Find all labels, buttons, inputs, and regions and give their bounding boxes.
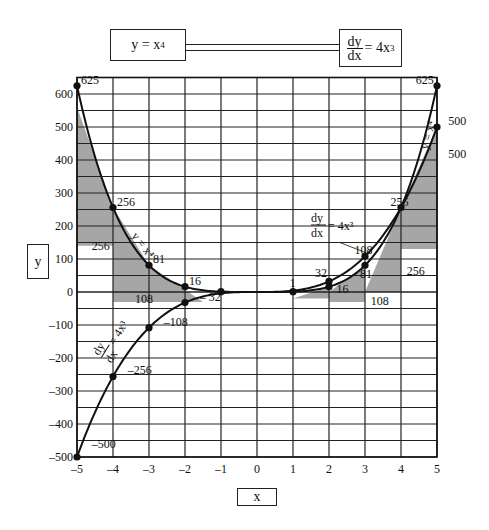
value-annotation: 108 (135, 292, 153, 306)
svg-text:5: 5 (434, 462, 440, 476)
svg-text:–500: –500 (48, 450, 73, 464)
value-annotation: 500 (448, 114, 466, 128)
svg-text:–200: –200 (48, 351, 73, 365)
chart-plot: –5–4–3–2–1012345–500–400–300–200–1000100… (0, 0, 489, 530)
data-point (181, 283, 188, 290)
value-annotation: 1 (290, 276, 296, 290)
svg-text:3: 3 (362, 462, 368, 476)
svg-text:500: 500 (55, 120, 73, 134)
svg-text:–2: –2 (178, 462, 191, 476)
svg-text:–3: –3 (142, 462, 155, 476)
data-point (433, 82, 440, 89)
svg-text:0: 0 (67, 285, 73, 299)
svg-text:1: 1 (290, 462, 296, 476)
value-annotation: 108 (355, 243, 373, 257)
data-point (73, 453, 80, 460)
svg-text:–5: –5 (70, 462, 83, 476)
value-annotation: 625 (416, 73, 434, 87)
value-annotation: 108 (371, 294, 389, 308)
value-annotation: 16 (337, 282, 349, 296)
value-annotation: 32 (315, 266, 327, 280)
curve-label: dydx= 4x³ (311, 211, 354, 240)
data-point (109, 204, 116, 211)
svg-text:100: 100 (55, 252, 73, 266)
data-point (109, 373, 116, 380)
value-annotation: 81 (360, 267, 372, 281)
value-annotation: 500 (448, 147, 466, 161)
data-point (145, 262, 152, 269)
value-annotation: –108 (163, 315, 188, 329)
svg-text:–1: –1 (214, 462, 227, 476)
svg-text:–400: –400 (48, 417, 73, 431)
value-annotation: 16 (189, 274, 201, 288)
value-annotation: 256 (407, 264, 425, 278)
svg-text:300: 300 (55, 186, 73, 200)
value-annotation: 256 (92, 239, 110, 253)
value-annotation: 256 (117, 195, 135, 209)
svg-text:2: 2 (326, 462, 332, 476)
data-point (181, 299, 188, 306)
value-annotation: – 32 (199, 290, 221, 304)
svg-text:200: 200 (55, 219, 73, 233)
svg-text:600: 600 (55, 87, 73, 101)
svg-text:= 4x³: = 4x³ (105, 318, 131, 347)
data-point (145, 324, 152, 331)
svg-text:–100: –100 (48, 318, 73, 332)
value-annotation: 81 (153, 252, 165, 266)
svg-text:4: 4 (398, 462, 404, 476)
svg-text:–4: –4 (106, 462, 119, 476)
value-annotation: 625 (81, 73, 99, 87)
value-annotation: –256 (127, 363, 152, 377)
data-point (73, 82, 80, 89)
svg-text:–300: –300 (48, 384, 73, 398)
value-annotation: –500 (91, 437, 116, 451)
svg-text:= 4x³: = 4x³ (328, 219, 354, 233)
svg-text:dx: dx (311, 226, 323, 240)
value-annotation: 256 (391, 195, 409, 209)
svg-text:dy: dy (311, 211, 323, 225)
svg-text:400: 400 (55, 153, 73, 167)
svg-text:0: 0 (254, 462, 260, 476)
